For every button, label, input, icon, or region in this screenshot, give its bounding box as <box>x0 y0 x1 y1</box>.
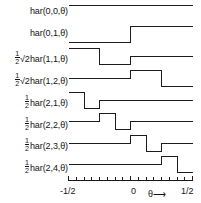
row-label-har-1-1: 12√2har(1,1,θ) <box>15 50 68 65</box>
row-label-har-2-4: 12har(2,4,θ) <box>25 159 68 174</box>
row-label-text: har(2,2,θ) <box>30 121 68 130</box>
row-label-har-0-0: har(0,0,θ) <box>30 7 68 16</box>
x-axis-arrow-icon: ⟶ <box>153 189 165 199</box>
fraction-one-half: 12 <box>25 137 30 152</box>
row-label-har-2-3: 12har(2,3,θ) <box>25 137 68 152</box>
x-tick-label-minus-half: -1/2 <box>60 187 76 196</box>
waveform-2 <box>69 49 193 65</box>
fraction-one-half: 12 <box>25 159 30 174</box>
waveform-7 <box>69 157 193 173</box>
radical-sqrt2: √2 <box>20 55 29 64</box>
x-axis-title: θ⟶ <box>148 190 165 199</box>
row-label-text: har(0,1,θ) <box>30 29 68 38</box>
radical-sqrt2: √2 <box>20 77 29 86</box>
row-label-text: har(2,1,θ) <box>30 99 68 108</box>
fraction-one-half: 12 <box>25 94 30 109</box>
fraction-one-half: 12 <box>15 72 20 87</box>
row-label-text: har(1,2,θ) <box>30 77 68 86</box>
row-label-text: har(0,0,θ) <box>30 7 68 16</box>
row-label-text: har(2,4,θ) <box>30 164 68 173</box>
row-label-har-2-2: 12har(2,2,θ) <box>25 116 68 131</box>
waveform-6 <box>69 136 193 152</box>
row-label-har-1-2: 12√2har(1,2,θ) <box>15 72 68 87</box>
waveform-3 <box>69 71 193 87</box>
row-label-text: har(1,1,θ) <box>30 55 68 64</box>
x-tick-label-zero: 0 <box>131 187 136 196</box>
waveform-5 <box>69 114 193 130</box>
x-tick-label-plus-half: 1/2 <box>181 187 194 196</box>
row-label-har-2-1: 12har(2,1,θ) <box>25 94 68 109</box>
row-label-har-0-1: har(0,1,θ) <box>30 29 68 38</box>
fraction-one-half: 12 <box>15 50 20 65</box>
waveform-4 <box>69 93 193 109</box>
haar-function-figure: har(0,0,θ) har(0,1,θ) 12√2har(1,1,θ) 12√… <box>0 0 201 203</box>
waveform-1 <box>69 27 193 43</box>
row-label-text: har(2,3,θ) <box>30 142 68 151</box>
fraction-one-half: 12 <box>25 116 30 131</box>
